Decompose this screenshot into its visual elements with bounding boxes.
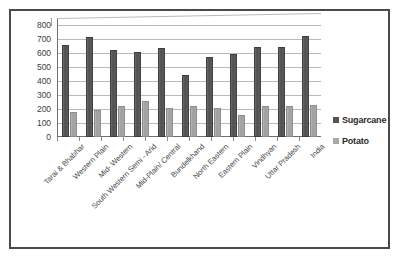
bar-potato: [118, 106, 125, 137]
bar-sugarcane: [302, 36, 309, 137]
y-axis-tick-label: 200: [25, 105, 51, 113]
x-axis-tick: [233, 137, 255, 142]
bar-potato: [286, 106, 293, 137]
x-axis-tick: [79, 137, 101, 142]
bar-sugarcane: [278, 47, 285, 137]
bar-group: [153, 25, 177, 137]
legend-label: Potato: [342, 136, 369, 146]
x-axis-tick: [211, 137, 233, 142]
y-axis-tick-label: 600: [25, 49, 51, 57]
x-axis-label: India: [309, 142, 327, 160]
y-axis-tick-label: 100: [25, 119, 51, 127]
bar-group: [297, 25, 321, 137]
x-axis-tick: [255, 137, 277, 142]
y-axis-tick-label: 800: [25, 21, 51, 29]
y-axis-tick-label: 300: [25, 91, 51, 99]
bar-potato: [190, 106, 197, 137]
chart-card: 8007006005004003002001000 Tarai & Bhabha…: [9, 9, 390, 249]
legend-label: Sugarcane: [342, 115, 386, 125]
bar-sugarcane: [110, 50, 117, 138]
bar-potato: [238, 115, 245, 137]
y-axis-tick-label: 0: [25, 133, 51, 141]
x-axis-tick: [57, 137, 79, 142]
bar-groups: [57, 25, 321, 137]
bar-potato: [94, 110, 101, 137]
y-axis-tick-label: 400: [25, 77, 51, 85]
bar-sugarcane: [254, 47, 261, 137]
legend-swatch-icon: [333, 138, 339, 144]
bar-group: [105, 25, 129, 137]
bar-sugarcane: [86, 37, 93, 137]
bar-group: [177, 25, 201, 137]
chart-legend: SugarcanePotato: [333, 115, 393, 157]
plot-area: [57, 25, 321, 137]
bar-group: [273, 25, 297, 137]
bar-sugarcane: [182, 75, 189, 137]
bar-sugarcane: [206, 57, 213, 138]
bar-sugarcane: [134, 52, 141, 137]
plot-depth-edge: [57, 13, 321, 19]
bar-group: [129, 25, 153, 137]
bar-sugarcane: [230, 54, 237, 137]
bar-group: [201, 25, 225, 137]
bar-potato: [214, 108, 221, 137]
x-axis-ticks: [57, 137, 321, 142]
bar-potato: [262, 106, 269, 137]
legend-item-sugarcane[interactable]: Sugarcane: [333, 115, 393, 125]
bar-potato: [142, 101, 149, 137]
y-axis-tick-labels: 8007006005004003002001000: [25, 25, 51, 137]
x-axis-tick: [101, 137, 123, 142]
x-axis-label: Tarai & Bhabhar: [42, 142, 86, 186]
bar-group: [225, 25, 249, 137]
bar-sugarcane: [158, 48, 165, 137]
bar-potato: [166, 108, 173, 137]
bar-potato: [310, 105, 317, 137]
bar-group: [81, 25, 105, 137]
legend-swatch-icon: [333, 117, 339, 123]
bar-potato: [70, 112, 77, 137]
y-axis-tick-label: 500: [25, 63, 51, 71]
bar-group: [57, 25, 81, 137]
y-axis-tick-label: 700: [25, 35, 51, 43]
x-axis-tick: [299, 137, 321, 142]
chart-plot-wrapper: 8007006005004003002001000 Tarai & Bhabha…: [11, 11, 388, 247]
bar-sugarcane: [62, 45, 69, 137]
x-axis-tick: [123, 137, 145, 142]
x-axis-tick: [167, 137, 189, 142]
bar-group: [249, 25, 273, 137]
x-axis-tick: [145, 137, 167, 142]
legend-item-potato[interactable]: Potato: [333, 136, 393, 146]
